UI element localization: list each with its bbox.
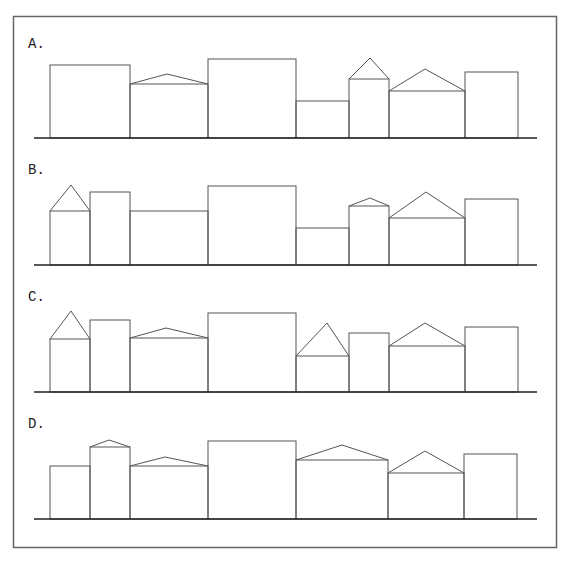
building-body [50, 339, 90, 392]
building [296, 101, 349, 138]
building-body [50, 466, 90, 519]
building [208, 441, 296, 519]
building [130, 457, 208, 519]
building [464, 454, 517, 519]
building-body [349, 333, 389, 392]
building-body [296, 228, 349, 265]
building-body [296, 101, 349, 138]
building-roof [130, 457, 208, 466]
building-roof [349, 198, 389, 206]
building [90, 440, 130, 519]
building [130, 328, 208, 392]
building-body [90, 447, 130, 519]
building-body [349, 206, 389, 265]
building-roof [389, 323, 465, 346]
building [208, 313, 296, 392]
building-roof [130, 74, 208, 84]
building-body [464, 454, 517, 519]
building-body [90, 320, 130, 392]
building [50, 311, 90, 392]
building-roof [296, 445, 388, 460]
building [296, 228, 349, 265]
building [90, 192, 130, 265]
building-body [208, 313, 296, 392]
building-roof [296, 323, 349, 356]
building-body [465, 72, 518, 138]
building-body [465, 199, 518, 265]
building-body [50, 211, 90, 265]
options-layer: A.B.C.D. [28, 36, 537, 519]
building [349, 58, 389, 138]
option-a: A. [28, 36, 537, 138]
option-label: D. [28, 416, 45, 432]
building-roof [50, 185, 90, 211]
building [296, 323, 349, 392]
building-body [465, 327, 518, 392]
building [208, 186, 296, 265]
building [349, 333, 389, 392]
building-body [296, 460, 388, 519]
building-roof [389, 192, 465, 218]
building-roof [388, 451, 464, 473]
building-body [389, 218, 465, 265]
building [349, 198, 389, 265]
option-d: D. [28, 416, 537, 519]
building-roof [389, 69, 465, 91]
figure-border [14, 17, 557, 548]
skyline-options-figure: A.B.C.D. [0, 0, 568, 564]
building-roof [50, 311, 90, 339]
option-label: B. [28, 162, 45, 178]
building-body [389, 91, 465, 138]
building-body [130, 211, 208, 265]
building-body [389, 346, 465, 392]
building-body [130, 338, 208, 392]
option-label: C. [28, 289, 45, 305]
building-body [90, 192, 130, 265]
building [389, 192, 465, 265]
building-body [349, 79, 389, 138]
building-body [130, 466, 208, 519]
building [389, 69, 465, 138]
building-body [208, 441, 296, 519]
building-roof [349, 58, 389, 79]
building-body [130, 84, 208, 138]
building [465, 199, 518, 265]
building [208, 59, 296, 138]
building [389, 323, 465, 392]
building [130, 211, 208, 265]
building-body [50, 65, 130, 138]
building-body [208, 59, 296, 138]
building [465, 72, 518, 138]
building [465, 327, 518, 392]
building-body [296, 356, 349, 392]
building [90, 320, 130, 392]
building [50, 185, 90, 265]
building-body [388, 473, 464, 519]
building [388, 451, 464, 519]
building-roof [130, 328, 208, 338]
option-label: A. [28, 36, 45, 52]
building-body [208, 186, 296, 265]
option-b: B. [28, 162, 537, 265]
option-c: C. [28, 289, 537, 392]
building [50, 466, 90, 519]
building-roof [90, 440, 130, 447]
building [50, 65, 130, 138]
building [130, 74, 208, 138]
building [296, 445, 388, 519]
